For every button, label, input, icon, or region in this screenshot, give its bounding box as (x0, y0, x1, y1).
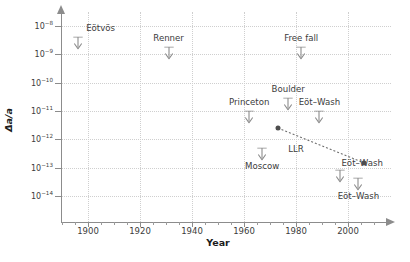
data-point-label: Eöt–Wash (299, 97, 341, 107)
x-axis-tick-label: 1940 (181, 226, 203, 236)
gridline-vertical (140, 12, 141, 222)
upper-limit-arrow-icon (257, 146, 268, 159)
y-axis-line (61, 12, 62, 222)
x-axis-title: Year (206, 237, 230, 248)
chart-canvas: 10−810−910−1010−1110−1210−1310−14 190019… (0, 0, 410, 262)
y-axis-title: Δa/a (3, 108, 14, 132)
upper-limit-arrow-icon (72, 34, 83, 47)
upper-limit-arrow-icon (314, 109, 325, 122)
data-point-label: Renner (153, 33, 184, 43)
y-axis-tick-label: 10−10 (31, 78, 53, 87)
y-axis-tick-label: 10−8 (35, 22, 53, 31)
gridline-horizontal (61, 139, 391, 140)
upper-limit-arrow-icon (163, 45, 174, 58)
gridline-vertical (192, 12, 193, 222)
upper-limit-arrow-icon (296, 45, 307, 58)
x-axis-minor-tick (101, 222, 102, 225)
y-axis-tick-label: 10−13 (31, 163, 53, 172)
x-axis-minor-tick (205, 222, 206, 225)
y-axis-tick-label: 10−14 (31, 191, 53, 200)
data-point-label: Eöt–Wash (338, 191, 380, 201)
data-point-label: Free fall (284, 33, 318, 43)
x-axis-tick-label: 1980 (285, 226, 307, 236)
y-axis-tick (55, 139, 61, 140)
llr-series-label: LLR (288, 144, 304, 154)
x-axis-minor-tick (361, 222, 362, 225)
x-axis-minor-tick (309, 222, 310, 225)
gridline-horizontal (61, 111, 391, 112)
x-axis-minor-tick (322, 222, 323, 225)
y-axis-tick (55, 83, 61, 84)
y-axis-tick (55, 168, 61, 169)
y-axis-tick-label: 10−9 (35, 50, 53, 59)
x-axis-minor-tick (114, 222, 115, 225)
gridline-horizontal (61, 83, 391, 84)
upper-limit-arrow-icon (283, 96, 294, 109)
llr-data-point (361, 160, 366, 165)
y-axis-tick (55, 54, 61, 55)
x-axis-minor-tick (166, 222, 167, 225)
x-axis-tick-label: 1920 (129, 226, 151, 236)
data-point-label: Boulder (272, 84, 305, 94)
y-axis-tick (55, 26, 61, 27)
upper-limit-arrow-icon (335, 167, 346, 180)
x-axis-minor-tick (283, 222, 284, 225)
x-axis-minor-tick (231, 222, 232, 225)
y-axis-tick (55, 196, 61, 197)
llr-data-point (275, 126, 280, 131)
x-axis-minor-tick (218, 222, 219, 225)
gridline-horizontal (61, 54, 391, 55)
gridline-vertical (296, 12, 297, 222)
x-axis-minor-tick (75, 222, 76, 225)
x-axis-minor-tick (270, 222, 271, 225)
gridline-vertical (88, 12, 89, 222)
x-axis-tick-label: 1900 (77, 226, 99, 236)
data-point-label: Princeton (229, 97, 270, 107)
x-axis-arrow-icon (386, 218, 395, 226)
x-axis-minor-tick (257, 222, 258, 225)
x-axis-minor-tick (127, 222, 128, 225)
data-point-label: Moscow (245, 161, 279, 171)
x-axis-minor-tick (374, 222, 375, 225)
x-axis-minor-tick (153, 222, 154, 225)
x-axis-minor-tick (335, 222, 336, 225)
x-axis-minor-tick (62, 222, 63, 225)
x-axis-line (61, 222, 391, 223)
y-axis-tick-label: 10−12 (31, 135, 53, 144)
upper-limit-arrow-icon (244, 109, 255, 122)
data-point-label: Eötvös (86, 23, 115, 33)
x-axis-minor-tick (179, 222, 180, 225)
y-axis-arrow-icon (57, 5, 65, 14)
y-axis-tick-label: 10−11 (31, 106, 53, 115)
x-axis-tick-label: 2000 (337, 226, 359, 236)
upper-limit-arrow-icon (353, 176, 364, 189)
y-axis-tick (55, 111, 61, 112)
x-axis-tick-label: 1960 (233, 226, 255, 236)
